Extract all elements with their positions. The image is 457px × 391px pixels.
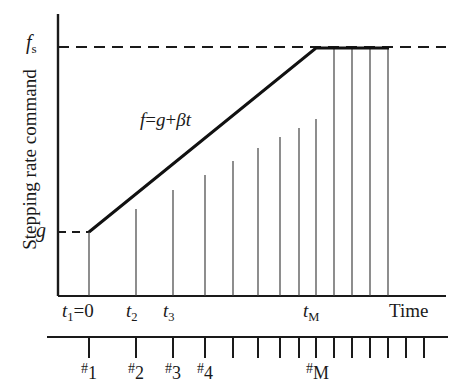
eq-plus: + <box>166 109 177 130</box>
figure-canvas: Stepping rate command fs g f=g+βt t1=0 t… <box>0 0 457 391</box>
pulse-label-4: #4 <box>197 361 213 382</box>
pulse-3-hash: # <box>165 360 172 376</box>
y-tick-label-fs: fs <box>26 32 37 55</box>
pulse-M-text: M <box>313 363 329 383</box>
x-axis-label: Time <box>389 301 428 320</box>
pulse-4-text: 4 <box>204 363 213 383</box>
pulse-ruler-ticks <box>89 337 424 358</box>
eq-equals: = <box>145 109 156 130</box>
pulse-1-text: 1 <box>88 363 97 383</box>
pulse-label-M: #M <box>306 361 329 382</box>
eq-t: t <box>186 109 191 130</box>
fs-subscript: s <box>32 41 37 56</box>
pulse-1-hash: # <box>81 360 88 376</box>
t2-subscript: 2 <box>131 310 137 324</box>
pulse-2-hash: # <box>128 360 135 376</box>
pulse-3-text: 3 <box>172 363 181 383</box>
pulse-4-hash: # <box>197 360 204 376</box>
x-tick-label-t1: t1=0 <box>62 301 94 324</box>
eq-g: g <box>156 109 166 130</box>
pulse-M-hash: # <box>306 360 313 376</box>
x-tick-label-tM: tM <box>303 301 319 324</box>
g-symbol: g <box>36 219 46 241</box>
t3-subscript: 3 <box>168 310 174 324</box>
step-pulse-lines <box>89 48 388 296</box>
eq-beta: β <box>176 109 185 130</box>
t1-suffix: =0 <box>74 300 94 321</box>
x-tick-label-t3: t3 <box>163 301 175 324</box>
pulse-label-1: #1 <box>81 361 97 382</box>
pulse-2-text: 2 <box>135 363 144 383</box>
pulse-label-3: #3 <box>165 361 181 382</box>
tM-subscript: M <box>308 310 319 324</box>
ramp-equation-label: f=g+βt <box>140 110 191 129</box>
x-tick-label-t2: t2 <box>126 301 138 324</box>
y-tick-label-g: g <box>36 220 46 240</box>
stepping-rate-curve <box>89 48 389 232</box>
diagram-svg <box>0 0 457 391</box>
pulse-label-2: #2 <box>128 361 144 382</box>
